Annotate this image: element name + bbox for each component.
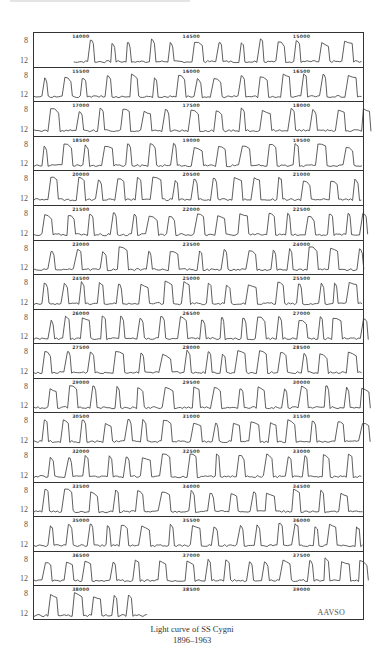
light-curve-strip: 245002500025500	[34, 275, 363, 310]
light-curve-line	[34, 275, 363, 309]
light-curve-line	[34, 102, 363, 136]
y-tick-8: 8	[8, 589, 28, 598]
y-tick-12: 12	[8, 609, 28, 618]
light-curve-line	[34, 379, 363, 413]
light-curve-line	[34, 171, 363, 205]
light-curve-line	[34, 33, 363, 67]
light-curve-strip: 140001450015000	[34, 33, 363, 68]
caption-title: Light curve of SS Cygni	[0, 624, 384, 635]
aavso-credit: AAVSO	[317, 608, 345, 617]
light-curve-line	[34, 552, 363, 586]
y-tick-12: 12	[8, 159, 28, 168]
y-tick-12: 12	[8, 436, 28, 445]
y-tick-8: 8	[8, 105, 28, 114]
y-tick-12: 12	[8, 505, 28, 514]
light-curve-strip: 260002650027000	[34, 310, 363, 345]
y-tick-12: 12	[8, 401, 28, 410]
y-tick-8: 8	[8, 416, 28, 425]
y-tick-12: 12	[8, 298, 28, 307]
y-tick-8: 8	[8, 486, 28, 495]
light-curve-strip: 170001750018000	[34, 102, 363, 137]
light-curve-strip: 290002950030000	[34, 379, 363, 414]
light-curve-line	[34, 241, 363, 275]
light-curve-line	[34, 413, 363, 447]
y-tick-12: 12	[8, 56, 28, 65]
y-tick-8: 8	[8, 71, 28, 80]
y-tick-12: 12	[8, 229, 28, 238]
light-curve-strip: 275002800028500	[34, 344, 363, 379]
y-tick-12: 12	[8, 471, 28, 480]
light-curve-line	[34, 517, 363, 551]
y-tick-12: 12	[8, 125, 28, 134]
y-tick-12: 12	[8, 194, 28, 203]
y-tick-8: 8	[8, 520, 28, 529]
light-curve-line	[34, 68, 363, 102]
figure-caption: Light curve of SS Cygni 1896–1963	[0, 624, 384, 646]
y-tick-12: 12	[8, 540, 28, 549]
light-curve-strip: 350003550036000	[34, 517, 363, 552]
light-curve-line	[34, 310, 363, 344]
cropped-header-text	[10, 0, 190, 2]
y-tick-8: 8	[8, 382, 28, 391]
y-tick-8: 8	[8, 209, 28, 218]
y-tick-12: 12	[8, 90, 28, 99]
light-curve-chart: 1400014500150001550016000165001700017500…	[33, 32, 364, 620]
y-tick-8: 8	[8, 347, 28, 356]
light-curve-strip: 230002350024000	[34, 241, 363, 276]
light-curve-line	[34, 483, 363, 517]
light-curve-line	[34, 206, 363, 240]
y-tick-12: 12	[8, 263, 28, 272]
light-curve-line	[34, 586, 363, 621]
y-tick-12: 12	[8, 367, 28, 376]
light-curve-line	[34, 448, 363, 482]
light-curve-strip: 215002200022500	[34, 206, 363, 241]
caption-years: 1896–1963	[0, 635, 384, 646]
y-tick-8: 8	[8, 313, 28, 322]
light-curve-strip: 380003850039000AAVSO	[34, 586, 363, 621]
light-curve-line	[34, 137, 363, 171]
light-curve-strip: 185001900019500	[34, 137, 363, 172]
light-curve-strip: 335003400034500	[34, 483, 363, 518]
light-curve-strip: 155001600016500	[34, 68, 363, 103]
y-tick-8: 8	[8, 278, 28, 287]
y-tick-8: 8	[8, 174, 28, 183]
y-tick-8: 8	[8, 36, 28, 45]
light-curve-line	[34, 344, 363, 378]
light-curve-strip: 305003100031500	[34, 413, 363, 448]
y-tick-8: 8	[8, 140, 28, 149]
y-tick-8: 8	[8, 451, 28, 460]
light-curve-strip: 200002050021000	[34, 171, 363, 206]
y-tick-12: 12	[8, 574, 28, 583]
light-curve-strip: 365003700037500	[34, 552, 363, 587]
y-tick-8: 8	[8, 555, 28, 564]
light-curve-strip: 320003250033000	[34, 448, 363, 483]
y-tick-8: 8	[8, 244, 28, 253]
y-tick-12: 12	[8, 332, 28, 341]
